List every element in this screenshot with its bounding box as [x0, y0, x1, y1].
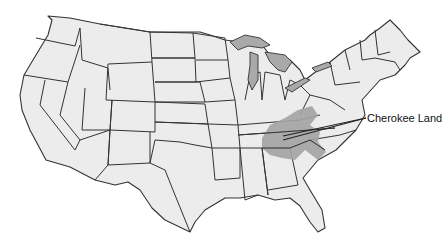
cherokee-land-label: Cherokee Land	[367, 112, 442, 124]
